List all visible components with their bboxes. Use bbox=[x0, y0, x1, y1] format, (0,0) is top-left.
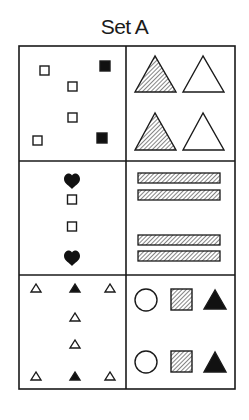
cell-hearts bbox=[64, 174, 80, 267]
solid-square bbox=[97, 133, 107, 143]
cell-small-triangles bbox=[31, 284, 115, 380]
hatched-bar bbox=[138, 235, 220, 245]
outlined-circle bbox=[135, 289, 157, 311]
outlined-small-triangle bbox=[105, 284, 115, 292]
solid-square bbox=[100, 61, 110, 71]
outlined-small-triangle bbox=[31, 284, 41, 292]
grid-lines bbox=[19, 46, 235, 389]
outlined-small-triangle bbox=[31, 372, 41, 380]
outlined-square bbox=[68, 82, 77, 91]
outlined-square bbox=[68, 113, 77, 122]
cell-large-triangles bbox=[135, 56, 224, 150]
solid-small-triangle bbox=[70, 372, 80, 380]
outlined-circle bbox=[135, 351, 157, 373]
outlined-square bbox=[68, 195, 77, 204]
cell-squares bbox=[33, 61, 110, 145]
hatched-triangle bbox=[135, 113, 176, 150]
hatched-square bbox=[171, 351, 192, 372]
heart-icon bbox=[64, 251, 80, 267]
hatched-triangle bbox=[135, 56, 176, 92]
hatched-square bbox=[171, 289, 192, 310]
outlined-square bbox=[33, 136, 42, 145]
outlined-square bbox=[68, 222, 77, 231]
cell-mixed-shapes bbox=[135, 289, 226, 373]
hatched-bar bbox=[138, 173, 220, 183]
outlined-triangle bbox=[183, 56, 224, 92]
cell-hatched-bars bbox=[138, 173, 220, 261]
heart-icon bbox=[64, 174, 80, 190]
outlined-small-triangle bbox=[70, 340, 80, 348]
solid-triangle bbox=[204, 352, 226, 372]
pattern-grid bbox=[0, 0, 249, 420]
outlined-square bbox=[40, 66, 49, 75]
outlined-small-triangle bbox=[105, 372, 115, 380]
outlined-triangle bbox=[183, 113, 224, 150]
solid-small-triangle bbox=[70, 284, 80, 292]
solid-triangle bbox=[204, 290, 226, 309]
hatched-bar bbox=[138, 251, 220, 261]
hatched-bar bbox=[138, 190, 220, 200]
outlined-small-triangle bbox=[70, 313, 80, 321]
